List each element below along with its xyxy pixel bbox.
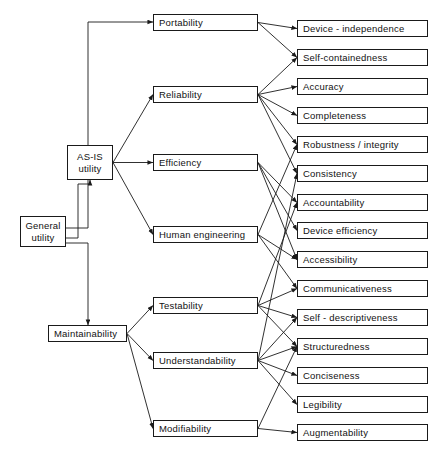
- edge-human-engineering-to-accessibility: [258, 235, 297, 260]
- edge-reliability-to-self-containedness: [258, 58, 297, 95]
- node-label: Accountability: [303, 197, 364, 208]
- edge-efficiency-to-accessibility: [258, 163, 297, 260]
- edge-reliability-to-consistency: [258, 95, 297, 174]
- node-label-line2: utility: [78, 163, 101, 175]
- edge-reliability-to-accuracy: [258, 87, 297, 95]
- node-modifiability[interactable]: Modifiability: [153, 420, 258, 437]
- node-completeness[interactable]: Completeness: [297, 107, 428, 124]
- node-legibility[interactable]: Legibility: [297, 396, 428, 413]
- node-augmentability[interactable]: Augmentability: [297, 424, 428, 441]
- node-label: Human engineering: [159, 229, 245, 240]
- edge-testability-to-accountability: [258, 203, 297, 306]
- node-self-descriptiveness[interactable]: Self - descriptiveness: [297, 309, 428, 326]
- node-consistency[interactable]: Consistency: [297, 165, 428, 182]
- node-label: Device - independence: [303, 23, 404, 34]
- node-label: Efficiency: [159, 157, 201, 168]
- edge-understandability-to-self-descriptiveness: [258, 318, 297, 361]
- edge-general-utility-to-maintainability: [66, 243, 88, 325]
- node-label: Legibility: [303, 399, 342, 410]
- edge-modifiability-to-augmentability: [258, 429, 297, 433]
- node-structuredness[interactable]: Structuredness: [297, 338, 428, 355]
- node-self-containedness[interactable]: Self-containedness: [297, 49, 428, 66]
- node-device-efficiency[interactable]: Device efficiency: [297, 222, 428, 239]
- node-testability[interactable]: Testability: [153, 297, 258, 314]
- edge-human-engineering-to-communicativeness: [258, 235, 297, 289]
- node-portability[interactable]: Portability: [153, 14, 258, 31]
- node-efficiency[interactable]: Efficiency: [153, 154, 258, 171]
- node-label: Augmentability: [303, 427, 368, 438]
- node-understandability[interactable]: Understandability: [153, 352, 258, 369]
- node-label: Self-containedness: [303, 52, 387, 63]
- node-label: Communicativeness: [303, 283, 392, 294]
- node-device-independence[interactable]: Device - independence: [297, 20, 428, 37]
- node-label-line1: General: [25, 220, 60, 232]
- quality-characteristics-tree-diagram: GeneralutilityAS-ISutilityMaintainabilit…: [0, 0, 439, 453]
- edge-general-utility-to-portability: [66, 22, 153, 228]
- edge-maintainability-to-modifiability: [127, 334, 153, 429]
- node-label: Reliability: [159, 89, 202, 100]
- node-label: Testability: [159, 300, 203, 311]
- edge-as-is-utility-to-human-engineering: [113, 163, 153, 235]
- node-label: Self - descriptiveness: [303, 312, 398, 323]
- node-reliability[interactable]: Reliability: [153, 86, 258, 103]
- node-label: Structuredness: [303, 341, 370, 352]
- node-accessibility[interactable]: Accessibility: [297, 251, 428, 268]
- node-label: Conciseness: [303, 370, 360, 381]
- node-communicativeness[interactable]: Communicativeness: [297, 280, 428, 297]
- node-label: Understandability: [159, 355, 236, 366]
- node-human-engineering[interactable]: Human engineering: [153, 226, 258, 243]
- node-label: Accessibility: [303, 254, 357, 265]
- edge-understandability-to-legibility: [258, 361, 297, 405]
- node-label: Maintainability: [54, 328, 117, 339]
- edge-general-utility-to-as-is-utility: [66, 180, 90, 238]
- node-as-is-utility[interactable]: AS-ISutility: [67, 145, 113, 180]
- node-accountability[interactable]: Accountability: [297, 194, 428, 211]
- node-conciseness[interactable]: Conciseness: [297, 367, 428, 384]
- node-accuracy[interactable]: Accuracy: [297, 78, 428, 95]
- edge-as-is-utility-to-reliability: [113, 95, 153, 163]
- node-general-utility[interactable]: Generalutility: [20, 216, 66, 247]
- node-label: Modifiability: [159, 423, 211, 434]
- node-label-line1: AS-IS: [77, 151, 103, 163]
- node-label: Robustness / integrity: [303, 139, 399, 150]
- edge-reliability-to-completeness: [258, 95, 297, 116]
- edge-understandability-to-conciseness: [258, 361, 297, 376]
- node-robustness-integrity[interactable]: Robustness / integrity: [297, 136, 428, 153]
- node-label-line2: utility: [31, 232, 54, 244]
- node-label: Device efficiency: [303, 225, 378, 236]
- node-maintainability[interactable]: Maintainability: [48, 325, 127, 342]
- node-label: Accuracy: [303, 81, 344, 92]
- edge-understandability-to-consistency: [258, 174, 297, 361]
- node-label: Completeness: [303, 110, 366, 121]
- node-label: Consistency: [303, 168, 357, 179]
- edge-maintainability-to-testability: [127, 306, 153, 334]
- node-label: Portability: [159, 17, 203, 28]
- edge-reliability-to-robustness-integrity: [258, 95, 297, 145]
